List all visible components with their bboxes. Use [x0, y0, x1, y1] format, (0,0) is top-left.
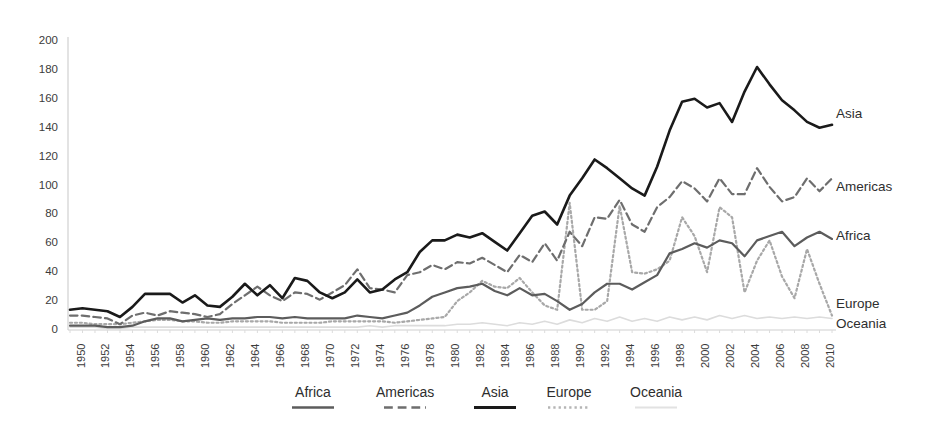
end-label-europe: Europe	[836, 296, 880, 311]
legend-item-asia[interactable]: Asia	[472, 384, 518, 411]
end-label-asia: Asia	[836, 106, 862, 121]
chart-legend: AfricaAmericasAsiaEuropeOceania	[268, 384, 688, 418]
legend-label-europe: Europe	[546, 384, 592, 400]
legend-label-asia: Asia	[472, 384, 518, 400]
legend-swatch-europe	[546, 404, 592, 411]
legend-item-europe[interactable]: Europe	[546, 384, 592, 411]
legend-swatch-asia	[472, 404, 518, 411]
end-label-americas: Americas	[836, 179, 892, 194]
series-line-asia	[70, 67, 832, 317]
end-label-oceania: Oceania	[836, 316, 886, 331]
legend-swatch-africa	[290, 404, 336, 411]
legend-swatch-americas	[382, 404, 428, 411]
legend-item-oceania[interactable]: Oceania	[630, 384, 682, 411]
legend-item-africa[interactable]: Africa	[290, 384, 336, 411]
series-line-europe	[70, 203, 832, 324]
line-chart-plot	[0, 0, 928, 421]
legend-item-americas[interactable]: Americas	[376, 384, 434, 411]
legend-label-africa: Africa	[290, 384, 336, 400]
end-label-africa: Africa	[836, 228, 871, 243]
chart-root: 200180160140120100806040200 195019521954…	[0, 0, 928, 421]
legend-label-oceania: Oceania	[630, 384, 682, 400]
legend-swatch-oceania	[633, 404, 679, 411]
legend-label-americas: Americas	[376, 384, 434, 400]
